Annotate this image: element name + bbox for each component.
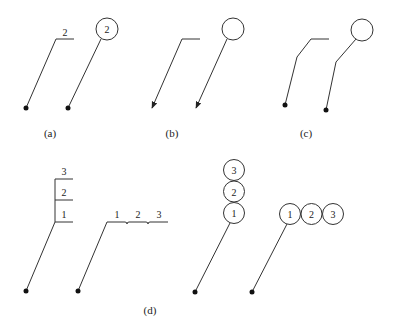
balloon-circle: [222, 18, 244, 40]
caption-a: (a): [44, 127, 57, 140]
dot-terminator: [250, 290, 255, 295]
panel-c: (c): [283, 19, 374, 140]
flag-leader-b: [152, 39, 200, 108]
panel-a: 2 2 (a): [24, 18, 119, 140]
caption-d: (d): [144, 304, 157, 317]
stack-label-middle: 2: [62, 187, 67, 198]
balloon-leader-b: [196, 18, 244, 108]
dot-terminator: [193, 290, 198, 295]
row-label-first: 1: [115, 209, 120, 220]
dot-terminator: [324, 108, 329, 113]
balloon-leader-a: 2: [66, 18, 119, 111]
dot-terminator: [24, 289, 29, 294]
leader-line-diagram: 2 2 (a) (b) (c): [0, 0, 395, 331]
dot-terminator: [283, 103, 288, 108]
balloon-circle: [351, 19, 373, 41]
flag-leader-c: [283, 39, 330, 108]
caption-c: (c): [300, 127, 313, 140]
dot-terminator: [76, 289, 81, 294]
balloon-stack-leader: 3 2 1: [193, 160, 245, 295]
balloon-leader-c: [324, 19, 374, 113]
row-label-third: 3: [157, 209, 162, 220]
dot-terminator: [24, 106, 29, 111]
balloon-label: 2: [105, 24, 110, 35]
balloon-row-label-second: 2: [309, 209, 314, 220]
balloon-row-label-third: 3: [331, 209, 336, 220]
balloon-stack-label-top: 3: [232, 165, 237, 176]
dot-terminator: [66, 106, 71, 111]
row-label-second: 2: [136, 209, 141, 220]
caption-b: (b): [166, 127, 179, 140]
panel-d: 3 2 1 1 2 3 3 2 1: [24, 160, 344, 318]
panel-b: (b): [152, 18, 244, 140]
horizontal-row-leader: 1 2 3: [76, 209, 169, 294]
balloon-stack-label-middle: 2: [232, 187, 237, 198]
balloon-row-leader: 1 2 3: [250, 204, 344, 295]
balloon-row-label-first: 1: [288, 209, 293, 220]
flag-leader-a: 2: [24, 27, 75, 111]
flag-label: 2: [63, 27, 68, 38]
balloon-stack-label-bottom: 1: [232, 208, 237, 219]
vertical-stack-leader: 3 2 1: [24, 166, 74, 294]
stack-label-bottom: 1: [62, 209, 67, 220]
stack-label-top: 3: [62, 166, 67, 177]
